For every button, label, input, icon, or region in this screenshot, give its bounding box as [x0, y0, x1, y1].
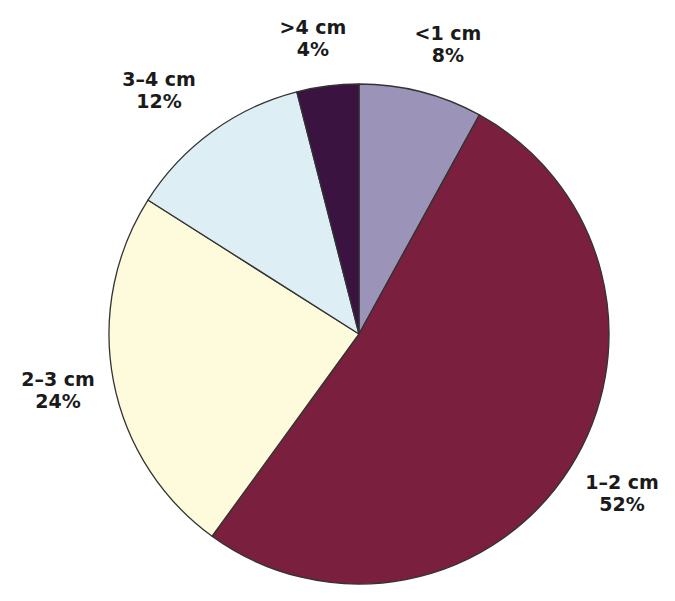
label-gt4cm: >4 cm 4% [263, 16, 363, 60]
slice-label: 1–2 cm [572, 471, 672, 493]
slice-percent: 4% [263, 38, 363, 60]
slice-percent: 12% [109, 90, 209, 112]
slice-percent: 8% [398, 44, 498, 66]
label-1-2cm: 1–2 cm 52% [572, 471, 672, 515]
slice-label: 3–4 cm [109, 68, 209, 90]
slice-percent: 52% [572, 493, 672, 515]
label-lt1cm: <1 cm 8% [398, 22, 498, 66]
slice-percent: 24% [8, 390, 108, 412]
label-2-3cm: 2–3 cm 24% [8, 368, 108, 412]
slice-label: 2–3 cm [8, 368, 108, 390]
slice-label: <1 cm [398, 22, 498, 44]
label-3-4cm: 3–4 cm 12% [109, 68, 209, 112]
slice-label: >4 cm [263, 16, 363, 38]
